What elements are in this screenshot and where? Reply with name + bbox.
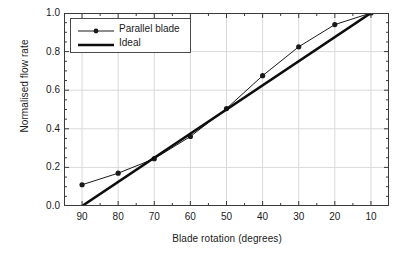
legend-label-parallel-blade: Parallel blade (116, 23, 180, 35)
x-tick-label: 40 (248, 212, 278, 222)
y-tick-label: 0.2 (34, 162, 60, 172)
x-tick-label: 80 (103, 212, 133, 222)
chart-legend: Parallel blade Ideal (70, 18, 191, 53)
y-tick-label: 0.8 (34, 47, 60, 57)
x-tick-label: 60 (175, 212, 205, 222)
y-tick-label: 0.6 (34, 85, 60, 95)
x-tick-label: 50 (212, 212, 242, 222)
y-axis-label: Normalised flow rate (18, 0, 32, 186)
legend-item-parallel-blade: Parallel blade (76, 22, 185, 36)
x-tick-label: 10 (356, 212, 386, 222)
x-axis-tick-labels: 908070605040302010 (0, 212, 405, 226)
legend-swatch-thick-line (76, 37, 116, 49)
legend-item-ideal: Ideal (76, 36, 185, 50)
chart-figure: Normalised flow rate 0.00.20.40.60.81.0 … (0, 0, 405, 261)
legend-label-ideal: Ideal (116, 37, 141, 49)
y-tick-label: 0.4 (34, 124, 60, 134)
x-axis-label: Blade rotation (degrees) (64, 233, 390, 244)
y-tick-label: 0.0 (34, 201, 60, 211)
x-tick-label: 70 (139, 212, 169, 222)
legend-swatch-line-marker (76, 23, 116, 35)
x-tick-label: 30 (284, 212, 314, 222)
x-tick-label: 20 (320, 212, 350, 222)
y-tick-label: 1.0 (34, 8, 60, 18)
x-tick-label: 90 (67, 212, 97, 222)
